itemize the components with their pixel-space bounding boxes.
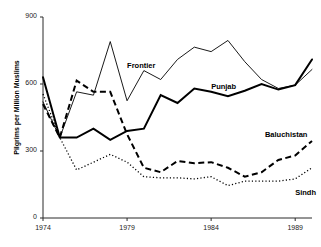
x-tick-label: 1984 — [196, 224, 226, 231]
series-label-punjab: Punjab — [211, 82, 236, 91]
chart-container: Pilgrims per Million Muslims 03006009001… — [0, 0, 321, 247]
plot-area — [0, 0, 321, 247]
series-line-sindh — [43, 94, 312, 186]
data-series-group — [43, 40, 312, 185]
series-label-sindh: Sindh — [295, 188, 316, 197]
series-line-punjab — [43, 59, 312, 139]
series-line-frontier — [43, 40, 312, 137]
series-label-frontier: Frontier — [127, 61, 155, 70]
x-tick-label: 1989 — [280, 224, 310, 231]
series-line-baluchistan — [43, 81, 312, 177]
y-tick-label: 900 — [3, 12, 37, 19]
x-tick-label: 1974 — [28, 224, 58, 231]
y-tick-label: 300 — [3, 146, 37, 153]
x-tick-label: 1979 — [112, 224, 142, 231]
axes — [40, 17, 312, 221]
y-tick-label: 600 — [3, 79, 37, 86]
y-tick-label: 0 — [3, 213, 37, 220]
series-label-baluchistan: Baluchistan — [265, 130, 308, 139]
